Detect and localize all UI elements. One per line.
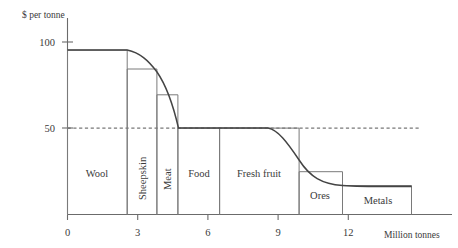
y-axis-title: $ per tonne: [22, 10, 65, 20]
bar-label-food: Food: [188, 168, 210, 179]
x-tick-label-6: 6: [205, 227, 210, 238]
bar-label-sheepskin: Sheepskin: [137, 156, 148, 200]
x-tick-label-12: 12: [343, 227, 354, 238]
bar-label-meat: Meat: [162, 168, 173, 190]
x-tick-label-9: 9: [275, 227, 280, 238]
bar-label-ores: Ores: [310, 190, 330, 201]
demand-curve-chart: $ per tonne Million tonnes 100 50 0 3 6 …: [0, 0, 458, 248]
x-axis-title: Million tonnes: [384, 230, 440, 240]
bar-label-fresh-fruit: Fresh fruit: [237, 168, 281, 179]
x-tick-label-0: 0: [65, 227, 70, 238]
y-tick-label-50: 50: [45, 123, 56, 134]
bar-label-wool: Wool: [86, 168, 109, 179]
bar-label-metals: Metals: [364, 195, 393, 206]
bar-wool: [68, 50, 128, 214]
demand-curve: [68, 50, 412, 186]
y-tick-label-100: 100: [39, 37, 55, 48]
chart-container: $ per tonne Million tonnes 100 50 0 3 6 …: [0, 0, 458, 248]
x-tick-label-3: 3: [135, 227, 140, 238]
